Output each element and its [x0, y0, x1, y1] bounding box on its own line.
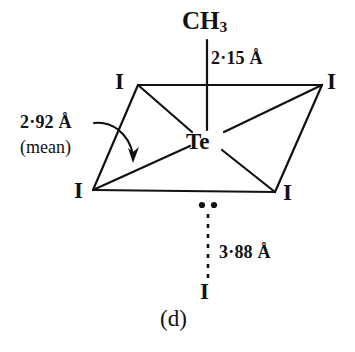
lone-pair-dot-left: [199, 202, 205, 208]
structure-skeleton: [0, 0, 355, 352]
polygon-edge-left: [93, 85, 138, 190]
polygon-edge-right: [275, 85, 322, 192]
atom-label-iodine-bottom-right: I: [283, 181, 292, 204]
atom-label-tellurium: Te: [186, 130, 209, 153]
atom-label-iodine-top-right: I: [327, 70, 336, 93]
mean-distance-arrow: [94, 123, 139, 163]
distance-label-te-iodine-axial: 3·88 Å: [219, 243, 271, 261]
atom-label-iodine-bottom-left: I: [74, 179, 83, 202]
atom-label-iodine-axial: I: [200, 280, 209, 303]
distance-label-te-methyl: 2·15 Å: [211, 49, 263, 67]
lone-pair-dot-right: [211, 202, 217, 208]
bond-te-iodine-bottom-right: [222, 150, 275, 192]
atom-label-methyl: CH3: [182, 8, 227, 35]
bond-te-iodine-top-right: [224, 85, 322, 132]
methyl-subscript: 3: [220, 18, 228, 35]
distance-label-te-iodine-mean: 2·92 Å: [20, 113, 72, 131]
atom-label-iodine-top-left: I: [115, 70, 124, 93]
distance-label-mean-qualifier: (mean): [20, 138, 71, 156]
bond-te-iodine-top-left: [138, 85, 192, 132]
mean-distance-arrow-head: [128, 147, 139, 163]
molecular-structure-figure: CH3 2·15 Å I I Te 2·92 Å (mean) I I 3·88…: [0, 0, 355, 352]
polygon-edge-bottom: [93, 190, 275, 192]
mean-distance-arrow-curve: [94, 123, 133, 154]
figure-caption: (d): [160, 307, 187, 330]
bond-te-iodine-bottom-left: [93, 146, 190, 190]
lone-pair-dots: [199, 202, 217, 208]
